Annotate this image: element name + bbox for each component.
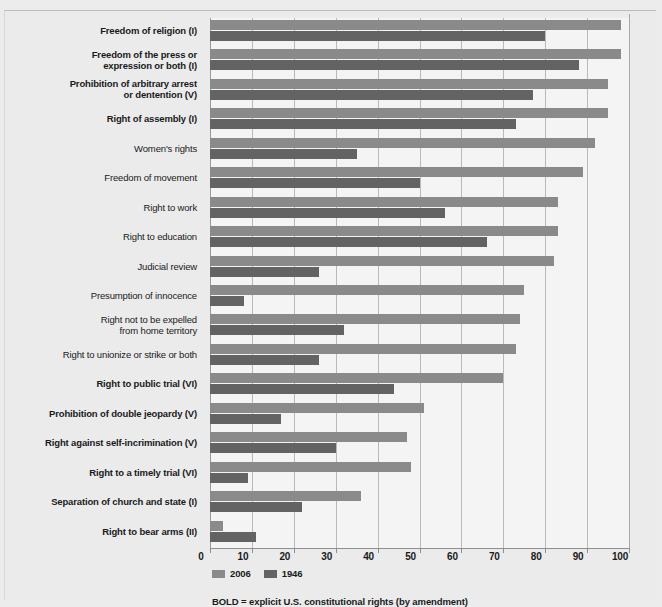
bar-1946 <box>210 31 545 41</box>
bar-2006 <box>210 314 520 324</box>
y-axis-label: Women's rights <box>0 143 197 154</box>
x-tick-label-100: 100 <box>612 551 628 562</box>
y-axis-label-line: Freedom of religion (I) <box>0 25 197 36</box>
bar-2006 <box>210 79 608 89</box>
y-axis-label-line: Right to public trial (VI) <box>0 378 197 389</box>
bar-2006 <box>210 49 621 59</box>
plot-right-border <box>629 14 630 552</box>
x-tick-label-90: 90 <box>573 551 584 562</box>
bar-2006 <box>210 373 503 383</box>
x-tick-label-0: 0 <box>198 551 203 562</box>
bar-1946 <box>210 149 357 159</box>
bar-1946 <box>210 60 579 70</box>
legend-item-2006: 2006 <box>212 568 251 579</box>
bar-2006 <box>210 462 411 472</box>
y-axis-label-line: expression or both (I) <box>0 60 197 71</box>
bar-2006 <box>210 285 524 295</box>
y-axis-label-line: Right to work <box>0 202 197 213</box>
y-axis-label: Right to a timely trial (VI) <box>0 467 197 478</box>
footnote-text: BOLD = explicit U.S. constitutional righ… <box>212 596 468 607</box>
bar-2006 <box>210 20 621 30</box>
bar-2006 <box>210 344 516 354</box>
bar-1946 <box>210 178 420 188</box>
legend-swatch-2006 <box>212 570 225 578</box>
bar-1946 <box>210 267 319 277</box>
x-tick-label-30: 30 <box>321 551 332 562</box>
y-axis-label: Freedom of the press orexpression or bot… <box>0 49 197 71</box>
y-axis-label-line: from home territory <box>0 325 197 336</box>
y-axis-label-line: Judicial review <box>0 261 197 272</box>
bar-group <box>210 344 629 365</box>
x-tick-label-10: 10 <box>238 551 249 562</box>
x-tick-label-40: 40 <box>363 551 374 562</box>
y-axis-label-line: Freedom of movement <box>0 172 197 183</box>
bar-group <box>210 49 629 70</box>
y-axis-label-line: Presumption of innocence <box>0 290 197 301</box>
y-axis-label-line: Right of assembly (I) <box>0 113 197 124</box>
footnote: BOLD = explicit U.S. constitutional righ… <box>212 596 468 607</box>
y-axis-label-line: Right to a timely trial (VI) <box>0 467 197 478</box>
bar-group <box>210 226 629 247</box>
bar-2006 <box>210 138 595 148</box>
bar-group <box>210 462 629 483</box>
bar-1946 <box>210 237 487 247</box>
bar-group <box>210 373 629 394</box>
bar-rows <box>210 18 629 548</box>
legend-item-1946: 1946 <box>264 568 303 579</box>
y-axis-label-line: Right to unionize or strike or both <box>0 349 197 360</box>
bar-group <box>210 491 629 512</box>
y-axis-label-line: Right to bear arms (II) <box>0 526 197 537</box>
bar-group <box>210 138 629 159</box>
y-axis-label-line: Women's rights <box>0 143 197 154</box>
y-axis-label: Right to bear arms (II) <box>0 526 197 537</box>
bar-1946 <box>210 414 281 424</box>
legend: 20061946 <box>212 568 302 579</box>
y-axis-label: Right of assembly (I) <box>0 113 197 124</box>
y-axis-label-line: Freedom of the press or <box>0 49 197 60</box>
y-axis-label: Prohibition of double jeopardy (V) <box>0 408 197 419</box>
bar-1946 <box>210 90 533 100</box>
bar-1946 <box>210 384 394 394</box>
y-axis-label-line: or dentention (V) <box>0 89 197 100</box>
bar-2006 <box>210 167 583 177</box>
y-axis-label-line: Prohibition of arbitrary arrest <box>0 78 197 89</box>
x-tick-label-70: 70 <box>489 551 500 562</box>
bar-group <box>210 79 629 100</box>
bar-2006 <box>210 108 608 118</box>
y-axis-label-line: Separation of church and state (I) <box>0 496 197 507</box>
y-axis-label: Right to unionize or strike or both <box>0 349 197 360</box>
bar-1946 <box>210 119 516 129</box>
y-axis-label-line: Right to education <box>0 231 197 242</box>
bar-2006 <box>210 403 424 413</box>
y-axis-label: Judicial review <box>0 261 197 272</box>
bar-2006 <box>210 197 558 207</box>
x-tick-label-20: 20 <box>279 551 290 562</box>
bar-1946 <box>210 532 256 542</box>
x-tick-label-50: 50 <box>405 551 416 562</box>
y-axis-label: Right not to be expelledfrom home territ… <box>0 314 197 336</box>
bar-1946 <box>210 473 248 483</box>
bar-1946 <box>210 296 244 306</box>
y-axis-label: Freedom of religion (I) <box>0 25 197 36</box>
bar-group <box>210 521 629 542</box>
y-axis-label: Presumption of innocence <box>0 290 197 301</box>
x-tick-label-60: 60 <box>447 551 458 562</box>
bar-2006 <box>210 226 558 236</box>
y-axis-label: Separation of church and state (I) <box>0 496 197 507</box>
x-tick-label-80: 80 <box>531 551 542 562</box>
plot-area <box>210 18 630 548</box>
bar-group <box>210 108 629 129</box>
bar-group <box>210 167 629 188</box>
bar-group <box>210 20 629 41</box>
legend-label-1946: 1946 <box>282 568 303 579</box>
y-axis-label: Right against self-incrimination (V) <box>0 437 197 448</box>
bar-1946 <box>210 443 336 453</box>
bar-1946 <box>210 355 319 365</box>
y-axis-labels: Freedom of religion (I)Freedom of the pr… <box>0 18 205 548</box>
y-axis-label-line: Prohibition of double jeopardy (V) <box>0 408 197 419</box>
y-axis-label: Freedom of movement <box>0 172 197 183</box>
bar-group <box>210 403 629 424</box>
bar-2006 <box>210 491 361 501</box>
y-axis-label: Right to public trial (VI) <box>0 378 197 389</box>
bar-1946 <box>210 502 302 512</box>
